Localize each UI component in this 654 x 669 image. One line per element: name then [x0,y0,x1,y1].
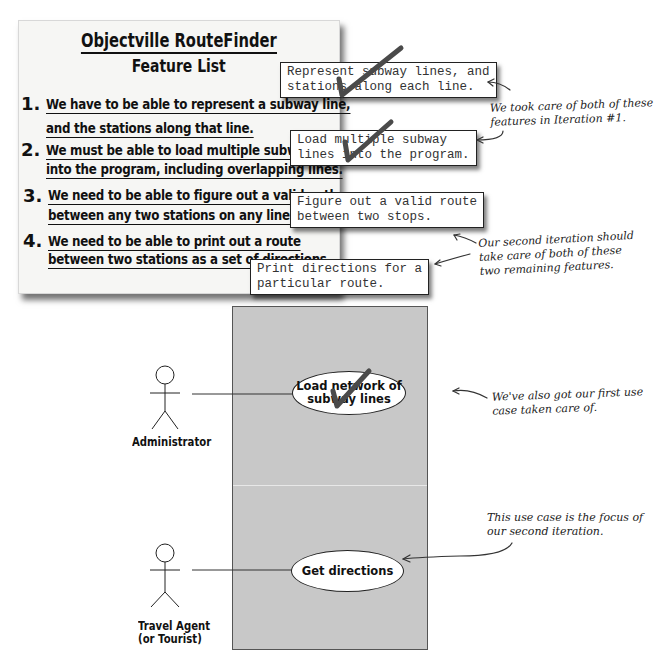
checkmark-icon [333,371,369,406]
note-focus: This use case is the focus of our second… [487,511,643,539]
note-iteration2: Our second iteration should take care of… [478,229,636,279]
checkmark-icon [339,48,401,95]
note-first-use-case: We've also got our first use case taken … [492,385,644,418]
note-iteration1: We took care of both of these features i… [490,96,654,130]
checkmark-icon [345,122,391,160]
